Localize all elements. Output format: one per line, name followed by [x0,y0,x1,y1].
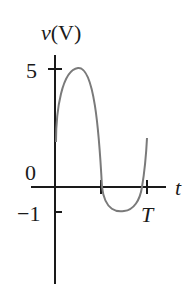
y-tick-label-0: 0 [25,160,36,185]
y-axis-label: v(V) [41,20,81,45]
y-tick-label-neg1: −1 [17,201,40,226]
voltage-waveform-chart: v(V) 5 0 −1 T t [0,0,195,295]
voltage-curve [56,68,147,211]
y-tick-label-5: 5 [26,58,37,83]
x-tick-label-T: T [141,202,155,227]
x-axis-label: t [175,175,182,200]
